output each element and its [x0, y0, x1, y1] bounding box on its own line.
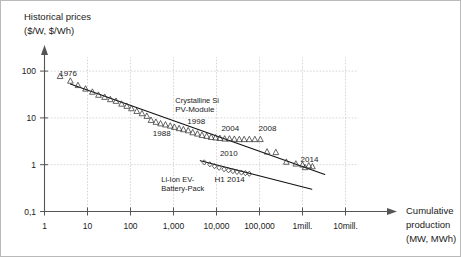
data-point — [258, 136, 264, 141]
y-tick-label: 0,1 — [24, 207, 36, 217]
x-axis-title: Cumulative production (MW, MWh) — [406, 205, 456, 244]
data-point — [139, 110, 145, 115]
ann-2004: 2004 — [221, 124, 239, 133]
chart-figure: 1001010,1 1101001,00010,000100,0001mill.… — [0, 0, 461, 257]
data-point — [246, 136, 252, 141]
ann-crystalline-si-2: PV-Module — [175, 105, 215, 114]
svg-text:Cumulative: Cumulative — [406, 205, 454, 216]
svg-text:production: production — [406, 219, 450, 230]
experience-curve-chart: 1001010,1 1101001,00010,000100,0001mill.… — [1, 1, 461, 257]
svg-text:Historical prices: Historical prices — [24, 11, 91, 22]
x-tick-label: 10mill. — [333, 221, 358, 231]
x-tick-label: 10 — [83, 221, 93, 231]
ann-1998: 1998 — [187, 117, 205, 126]
ann-1988: 1988 — [153, 129, 171, 138]
ann-2008: 2008 — [259, 124, 277, 133]
x-tick-label: 100,000 — [244, 221, 275, 231]
x-tick-label: 1,000 — [163, 221, 185, 231]
y-tick-label: 100 — [22, 66, 36, 76]
ann-crystalline-si-1: Crystalline Si — [175, 96, 219, 105]
data-point — [176, 125, 182, 130]
data-point — [68, 78, 74, 83]
ann-h1-2014: H1 2014 — [215, 175, 246, 184]
data-point — [199, 132, 205, 137]
x-tick-label: 1mill. — [293, 221, 313, 231]
svg-text:(MW, MWh): (MW, MWh) — [406, 233, 456, 244]
svg-text:($/W, $/Wh): ($/W, $/Wh) — [24, 25, 74, 36]
x-axis-arrowhead — [387, 208, 397, 215]
data-point — [195, 131, 201, 136]
ann-1976: 1976 — [59, 69, 77, 78]
x-tick-label: 100 — [123, 221, 137, 231]
y-axis-arrowhead — [41, 45, 48, 55]
data-point — [273, 149, 279, 154]
y-tick-label: 10 — [27, 113, 37, 123]
x-tick-label: 1 — [42, 221, 47, 231]
data-point — [252, 136, 258, 141]
ann-2014: 2014 — [301, 155, 319, 164]
ann-liion-1: Li-Ion EV- — [161, 175, 194, 184]
data-point — [153, 119, 159, 124]
ann-2010: 2010 — [220, 149, 238, 158]
y-axis-title: Historical prices ($/W, $/Wh) — [24, 11, 91, 36]
ann-liion-2: Battery-Pack — [161, 184, 204, 193]
chart-annotations: 1976198819982004200820102014H1 2014Cryst… — [59, 69, 319, 194]
y-tick-label: 1 — [31, 160, 36, 170]
x-tick-label: 10,000 — [204, 221, 230, 231]
